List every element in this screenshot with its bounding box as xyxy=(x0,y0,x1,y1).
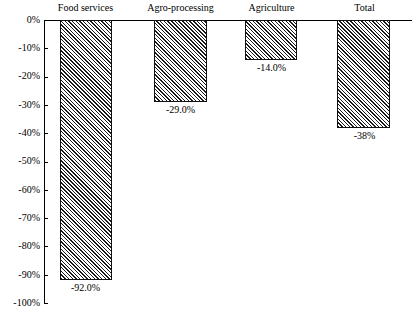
y-tick-label-8: -80% xyxy=(0,241,40,251)
value-label-food-services: -92.0% xyxy=(41,282,130,294)
bar-agro-processing xyxy=(154,20,207,102)
y-tick-label-4: -40% xyxy=(0,128,40,138)
y-tick-label-1: -10% xyxy=(0,43,40,53)
bar-total xyxy=(337,20,390,128)
bar-chart: 0% -10% -20% -30% -40% -50% -60% -70% -8… xyxy=(0,0,412,311)
y-tick-mark-10 xyxy=(44,303,48,304)
y-tick-label-6: -60% xyxy=(0,185,40,195)
y-axis-line xyxy=(44,20,45,303)
category-label-food-services: Food services xyxy=(41,2,130,14)
y-tick-label-9: -90% xyxy=(0,270,40,280)
y-axis-tick-labels: 0% -10% -20% -30% -40% -50% -60% -70% -8… xyxy=(0,0,40,311)
value-label-agriculture: -14.0% xyxy=(227,62,316,74)
y-tick-label-0: 0% xyxy=(0,15,40,25)
y-tick-label-3: -30% xyxy=(0,100,40,110)
y-tick-label-10: -100% xyxy=(0,298,40,308)
y-tick-label-2: -20% xyxy=(0,71,40,81)
category-label-agro-processing: Agro-processing xyxy=(136,2,225,14)
category-label-total: Total xyxy=(320,2,409,14)
category-label-agriculture: Agriculture xyxy=(227,2,316,14)
y-tick-label-7: -70% xyxy=(0,213,40,223)
bar-agriculture xyxy=(245,20,297,60)
y-tick-label-5: -50% xyxy=(0,156,40,166)
value-label-agro-processing: -29.0% xyxy=(136,104,225,116)
bar-food-services xyxy=(60,20,112,280)
value-label-total: -38% xyxy=(320,130,409,142)
